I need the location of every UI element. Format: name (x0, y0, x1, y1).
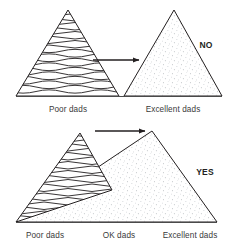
top-verdict-label: NO (199, 40, 212, 50)
top-target-label: Excellent dads (146, 105, 201, 114)
dads-distribution-figure: NO Poor dads Excellent dads (0, 0, 231, 249)
bottom-verdict-label: YES (196, 167, 214, 177)
top-source-label: Poor dads (49, 105, 87, 114)
bottom-target-label: Excellent dads (163, 231, 218, 240)
bottom-source-label: Poor dads (26, 231, 64, 240)
bottom-middle-label: OK dads (103, 231, 136, 240)
